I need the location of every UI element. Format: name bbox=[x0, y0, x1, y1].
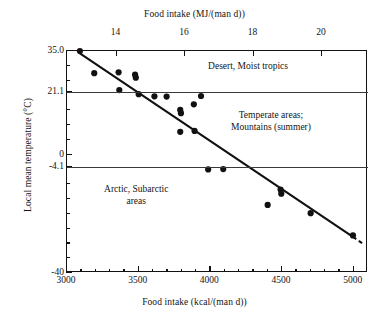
y-axis-minor-tick bbox=[66, 228, 70, 229]
x-axis-top-tick-label: 20 bbox=[316, 27, 326, 37]
data-point bbox=[198, 93, 204, 99]
data-point bbox=[178, 110, 184, 116]
data-point bbox=[177, 129, 183, 135]
y-axis-tick-label: -4.1 bbox=[49, 161, 64, 171]
zone-separator-line bbox=[67, 167, 368, 168]
x-axis-minor-tick bbox=[267, 269, 268, 273]
x-axis-top-tick-label: 14 bbox=[111, 27, 121, 37]
y-axis-minor-tick bbox=[66, 213, 70, 214]
y-axis-title: Local mean temperature (°C) bbox=[23, 55, 33, 255]
y-axis-minor-tick bbox=[66, 109, 70, 110]
regression-line-extension bbox=[353, 237, 364, 245]
top-axis-title: Food intake (MJ/(man d)) bbox=[0, 9, 389, 19]
zone-annotation: Temperate areas;Mountains (summer) bbox=[231, 109, 311, 133]
x-axis-tick-label: 4000 bbox=[200, 275, 219, 285]
x-axis-tick bbox=[353, 266, 354, 272]
x-axis-minor-tick bbox=[295, 269, 296, 273]
zone-annotation-line: Mountains (summer) bbox=[231, 121, 311, 133]
y-axis-tick-label: 21.1 bbox=[47, 86, 64, 96]
x-axis-minor-tick bbox=[310, 269, 311, 273]
y-axis-tick-label: -40 bbox=[51, 267, 64, 277]
y-axis-minor-tick bbox=[66, 80, 70, 81]
data-point bbox=[164, 93, 170, 99]
x-axis-top-tick bbox=[253, 50, 254, 56]
data-point bbox=[350, 232, 356, 238]
data-point bbox=[265, 202, 271, 208]
x-axis-top-tick-label: 16 bbox=[179, 27, 189, 37]
x-axis-minor-tick bbox=[224, 269, 225, 273]
y-axis-tick bbox=[66, 91, 72, 92]
x-axis-minor-tick bbox=[195, 269, 196, 273]
data-point bbox=[308, 210, 314, 216]
data-point bbox=[116, 69, 122, 75]
x-axis-tick-label: 5000 bbox=[343, 275, 362, 285]
x-axis-tick bbox=[281, 266, 282, 272]
x-axis-tick bbox=[209, 266, 210, 272]
x-axis-minor-tick bbox=[166, 269, 167, 273]
data-point bbox=[151, 93, 157, 99]
x-axis-minor-tick bbox=[109, 269, 110, 273]
x-axis-top-tick bbox=[321, 50, 322, 56]
y-axis-tick bbox=[66, 166, 72, 167]
y-axis-minor-tick bbox=[66, 257, 70, 258]
data-point bbox=[191, 128, 197, 134]
y-axis-minor-tick bbox=[66, 65, 70, 66]
zone-annotation-line: Desert, Moist tropics bbox=[208, 60, 288, 72]
zone-annotation: Arctic, Subarcticareas bbox=[104, 183, 168, 207]
x-axis-tick bbox=[138, 266, 139, 272]
chart-figure: Food intake (MJ/(man d)) Local mean temp… bbox=[0, 0, 389, 324]
x-axis-top-tick bbox=[184, 50, 185, 56]
y-axis-minor-tick bbox=[66, 198, 70, 199]
x-axis-minor-tick bbox=[338, 269, 339, 273]
x-axis-minor-tick bbox=[95, 269, 96, 273]
regression-line bbox=[80, 53, 353, 237]
y-axis-minor-tick bbox=[66, 139, 70, 140]
x-axis-minor-tick bbox=[252, 269, 253, 273]
y-axis-minor-tick bbox=[66, 242, 70, 243]
zone-annotation: Desert, Moist tropics bbox=[208, 60, 288, 72]
data-point bbox=[133, 75, 139, 81]
bottom-axis-title: Food intake (kcal/(man d)) bbox=[0, 297, 389, 307]
x-axis-minor-tick bbox=[324, 269, 325, 273]
x-axis-tick-label: 3500 bbox=[128, 275, 147, 285]
zone-separator-line bbox=[67, 92, 368, 93]
y-axis-tick bbox=[66, 154, 72, 155]
x-axis-tick-label: 4500 bbox=[272, 275, 291, 285]
y-axis-tick bbox=[66, 50, 72, 51]
data-point bbox=[91, 70, 97, 76]
x-axis-top-tick bbox=[116, 50, 117, 56]
data-point bbox=[191, 101, 197, 107]
data-point bbox=[278, 191, 284, 197]
x-axis-top-tick-label: 18 bbox=[248, 27, 258, 37]
data-point bbox=[77, 48, 83, 54]
plot-inner bbox=[67, 51, 366, 271]
y-axis-minor-tick bbox=[66, 183, 70, 184]
y-axis-minor-tick bbox=[66, 124, 70, 125]
x-axis-minor-tick bbox=[181, 269, 182, 273]
zone-annotation-line: areas bbox=[104, 195, 168, 207]
zone-annotation-line: Temperate areas; bbox=[231, 109, 311, 121]
x-axis-minor-tick bbox=[152, 269, 153, 273]
x-axis-minor-tick bbox=[80, 269, 81, 273]
x-axis-minor-tick bbox=[238, 269, 239, 273]
y-axis-tick-label: 35.0 bbox=[47, 45, 64, 55]
scatter-plot-canvas bbox=[67, 51, 368, 273]
x-axis-minor-tick bbox=[123, 269, 124, 273]
y-axis-tick-label: 0 bbox=[59, 149, 64, 159]
zone-annotation-line: Arctic, Subarctic bbox=[104, 183, 168, 195]
y-axis-tick bbox=[66, 272, 72, 273]
plot-area bbox=[66, 50, 367, 272]
